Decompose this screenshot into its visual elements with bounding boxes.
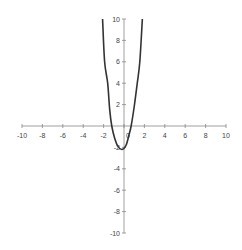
x-tick-label: -6 (60, 132, 66, 139)
x-tick-label: 6 (183, 132, 187, 139)
curve-line (103, 19, 143, 150)
x-tick-label: 2 (142, 132, 146, 139)
y-tick-label: -8 (114, 208, 120, 215)
chart: -10-8-6-4-20246810-10-8-6-4-2246810 (0, 0, 242, 250)
y-tick-label: -6 (114, 187, 120, 194)
x-tick-label: -10 (17, 132, 27, 139)
y-tick-label: -4 (114, 165, 120, 172)
x-tick-label: 8 (204, 132, 208, 139)
y-tick-label: 4 (116, 80, 120, 87)
x-tick-label: -4 (80, 132, 86, 139)
x-tick-label: 4 (163, 132, 167, 139)
y-tick-label: -10 (110, 230, 120, 237)
y-tick-label: 6 (116, 58, 120, 65)
x-tick-label: 10 (222, 132, 230, 139)
x-tick-label: -2 (100, 132, 106, 139)
x-tick-label: -8 (39, 132, 45, 139)
y-tick-label: 10 (112, 16, 120, 23)
y-tick-label: 8 (116, 37, 120, 44)
y-tick-label: 2 (116, 101, 120, 108)
axes (22, 19, 226, 233)
